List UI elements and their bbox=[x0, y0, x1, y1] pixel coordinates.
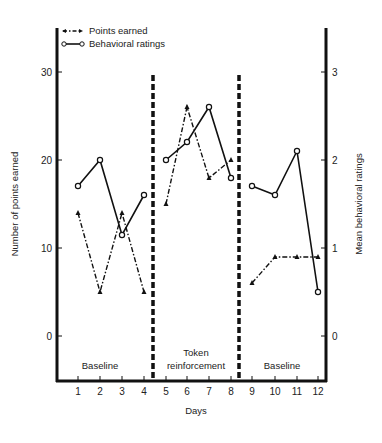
left-tick-30: 30 bbox=[41, 67, 53, 78]
right-axis-title: Mean behavioral ratings bbox=[353, 153, 364, 255]
svg-text:9: 9 bbox=[249, 386, 255, 397]
legend-points-earned-icon bbox=[62, 29, 83, 33]
phase-label-baseline-2: Baseline bbox=[264, 360, 300, 371]
svg-text:11: 11 bbox=[292, 386, 303, 397]
left-axis-title: Number of points earned bbox=[9, 152, 20, 257]
svg-text:1: 1 bbox=[75, 386, 81, 397]
legend-points-earned-label: Points earned bbox=[89, 25, 148, 36]
right-tick-2: 2 bbox=[332, 155, 338, 166]
series-points-earned bbox=[78, 107, 318, 292]
svg-text:12: 12 bbox=[312, 386, 324, 397]
right-tick-0: 0 bbox=[332, 331, 338, 342]
legend-behavioral-ratings-icon bbox=[62, 42, 84, 46]
svg-text:8: 8 bbox=[228, 386, 234, 397]
x-tick-labels: 1 2 3 4 5 6 7 8 9 10 11 12 bbox=[75, 386, 324, 397]
left-tick-10: 10 bbox=[41, 243, 53, 254]
svg-text:4: 4 bbox=[141, 386, 147, 397]
legend: Points earned Behavioral ratings bbox=[62, 25, 165, 49]
phase-label-token-line2: reinforcement bbox=[167, 360, 225, 371]
phase-label-token-line1: Token bbox=[183, 347, 208, 358]
series-behavioral-ratings bbox=[78, 107, 318, 292]
svg-text:5: 5 bbox=[163, 386, 169, 397]
x-axis-title: Days bbox=[185, 405, 207, 416]
right-tick-1: 1 bbox=[332, 243, 338, 254]
svg-text:10: 10 bbox=[269, 386, 281, 397]
svg-text:6: 6 bbox=[184, 386, 190, 397]
legend-behavioral-ratings-label: Behavioral ratings bbox=[89, 38, 165, 49]
left-tick-20: 20 bbox=[41, 155, 53, 166]
left-tick-0: 0 bbox=[46, 331, 52, 342]
phase-label-baseline-1: Baseline bbox=[82, 360, 118, 371]
svg-text:3: 3 bbox=[119, 386, 125, 397]
right-tick-3: 3 bbox=[332, 67, 338, 78]
svg-text:2: 2 bbox=[97, 386, 103, 397]
behavior-chart: 30 20 10 0 3 2 1 0 Number of points earn… bbox=[0, 0, 382, 443]
svg-text:7: 7 bbox=[206, 386, 212, 397]
